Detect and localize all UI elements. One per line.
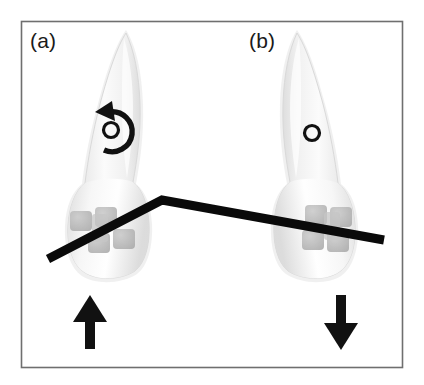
figure-container: (a) (b) (0, 0, 424, 385)
panel-b-label: (b) (249, 29, 275, 52)
orthodontic-v-bend-diagram: (a) (b) (0, 0, 424, 385)
panel-a-label: (a) (30, 29, 56, 52)
